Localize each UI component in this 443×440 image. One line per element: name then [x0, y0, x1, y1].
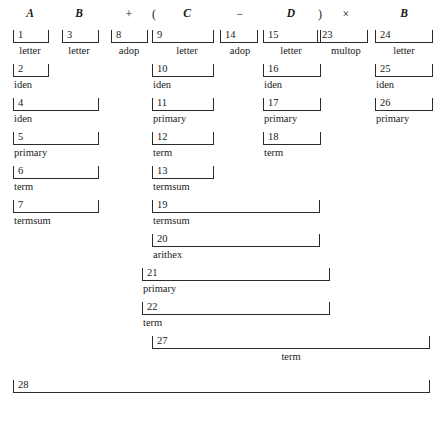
parse-node-label-5: primary — [14, 147, 47, 158]
parse-node-label-20: arithex — [153, 249, 182, 260]
parse-node-number-22: 22 — [147, 301, 158, 313]
parse-node-label-2: iden — [14, 79, 32, 90]
parse-node-number-21: 21 — [147, 267, 158, 279]
parse-node-bracket-17: 17 — [263, 98, 321, 111]
parse-node-label-8: adop — [119, 45, 139, 56]
parse-node-number-19: 19 — [157, 199, 168, 211]
parse-node-label-23: multop — [331, 45, 361, 56]
input-token-op-2: + — [126, 8, 133, 20]
parse-node-number-5: 5 — [18, 131, 23, 143]
parse-node-label-22: term — [143, 317, 162, 328]
parse-node-bracket-20: 20 — [152, 234, 320, 247]
parse-node-number-2: 2 — [18, 63, 23, 75]
parse-node-number-15: 15 — [268, 29, 279, 41]
input-token-op-5: − — [237, 8, 244, 20]
parse-node-number-8: 8 — [116, 29, 121, 41]
parse-node-number-26: 26 — [380, 97, 391, 109]
parse-node-label-10: iden — [153, 79, 171, 90]
parse-node-bracket-22: 22 — [142, 302, 330, 315]
parse-node-bracket-9: 9 — [152, 30, 214, 43]
parse-node-bracket-13: 13 — [152, 166, 214, 179]
input-token-id-4: C — [183, 8, 191, 20]
parse-node-number-27: 27 — [157, 335, 168, 347]
parse-node-number-6: 6 — [18, 165, 23, 177]
parse-node-label-7: termsum — [14, 215, 51, 226]
parse-node-label-1: letter — [19, 45, 41, 56]
parse-node-number-17: 17 — [268, 97, 279, 109]
parse-node-label-18: term — [264, 147, 283, 158]
parse-node-bracket-26: 26 — [375, 98, 433, 111]
parse-node-label-25: iden — [376, 79, 394, 90]
parse-node-bracket-14: 14 — [220, 30, 258, 43]
parse-node-bracket-16: 16 — [263, 64, 321, 77]
parse-node-label-13: termsum — [153, 181, 190, 192]
parse-node-number-1: 1 — [18, 29, 23, 41]
parse-node-bracket-5: 5 — [13, 132, 99, 145]
input-token-op-7: ) — [318, 8, 322, 20]
parse-node-number-14: 14 — [225, 29, 236, 41]
parse-node-number-10: 10 — [157, 63, 168, 75]
parse-node-number-23: 23 — [322, 29, 333, 41]
parse-node-bracket-4: 4 — [13, 98, 99, 111]
parse-node-label-11: primary — [153, 113, 186, 124]
parse-node-bracket-12: 12 — [152, 132, 214, 145]
parse-node-number-7: 7 — [18, 199, 23, 211]
parse-node-number-24: 24 — [380, 29, 391, 41]
parse-node-label-14: adop — [230, 45, 250, 56]
parse-node-label-26: primary — [376, 113, 409, 124]
parse-node-bracket-23: 23 — [317, 30, 368, 43]
parse-node-bracket-6: 6 — [13, 166, 99, 179]
parse-node-bracket-11: 11 — [152, 98, 214, 111]
parse-node-label-19: termsum — [153, 215, 190, 226]
parse-node-label-15: letter — [280, 45, 302, 56]
input-token-id-6: D — [287, 8, 295, 20]
parse-node-number-20: 20 — [157, 233, 168, 245]
parse-node-bracket-24: 24 — [375, 30, 433, 43]
input-token-op-8: × — [343, 8, 350, 20]
parse-node-number-3: 3 — [67, 29, 72, 41]
parse-node-label-24: letter — [393, 45, 415, 56]
parse-node-label-27: term — [281, 351, 300, 362]
input-token-id-0: A — [26, 8, 34, 20]
parse-node-bracket-18: 18 — [263, 132, 321, 145]
parse-node-bracket-2: 2 — [13, 64, 49, 77]
parse-node-bracket-3: 3 — [62, 30, 99, 43]
parse-node-bracket-10: 10 — [152, 64, 214, 77]
parse-node-bracket-8: 8 — [111, 30, 148, 43]
parse-node-label-17: primary — [264, 113, 297, 124]
parse-node-label-21: primary — [143, 283, 176, 294]
input-token-id-9: B — [400, 8, 408, 20]
parse-node-bracket-1: 1 — [13, 30, 49, 43]
parse-node-label-4: iden — [14, 113, 32, 124]
parse-node-bracket-21: 21 — [142, 268, 330, 281]
parse-node-number-12: 12 — [157, 131, 168, 143]
parse-node-number-18: 18 — [268, 131, 279, 143]
parse-node-number-16: 16 — [268, 63, 279, 75]
parse-node-label-12: term — [153, 147, 172, 158]
parse-node-bracket-15: 15 — [263, 30, 321, 43]
parse-node-number-4: 4 — [18, 97, 23, 109]
parse-tree-diagram: AB+(C−D)×B1letter3letter8adop9letter14ad… — [0, 0, 443, 440]
parse-node-number-11: 11 — [157, 97, 167, 109]
parse-node-bracket-7: 7 — [13, 200, 99, 213]
parse-node-number-28: 28 — [18, 379, 29, 391]
parse-node-label-6: term — [14, 181, 33, 192]
parse-node-number-9: 9 — [157, 29, 162, 41]
parse-node-label-9: letter — [176, 45, 198, 56]
parse-node-bracket-25: 25 — [375, 64, 433, 77]
parse-node-bracket-27: 27 — [152, 336, 430, 349]
parse-node-bracket-28: 28 — [13, 380, 430, 393]
parse-node-number-25: 25 — [380, 63, 391, 75]
parse-node-label-16: iden — [264, 79, 282, 90]
parse-node-number-13: 13 — [157, 165, 168, 177]
parse-node-label-3: letter — [68, 45, 90, 56]
input-token-id-1: B — [75, 8, 83, 20]
input-token-op-3: ( — [152, 8, 156, 20]
parse-node-bracket-19: 19 — [152, 200, 320, 213]
